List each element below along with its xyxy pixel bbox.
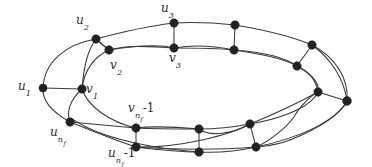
graph-edge bbox=[43, 88, 82, 89]
vertex-label-u1: u1 bbox=[18, 80, 31, 92]
vertex-label-unf: unf bbox=[50, 126, 66, 140]
graph-vertex-u3 bbox=[170, 19, 178, 27]
graph-edge bbox=[250, 92, 318, 124]
graph-edge bbox=[297, 66, 318, 92]
graph-vertex-vB bbox=[293, 62, 301, 70]
graph-edge bbox=[174, 23, 235, 25]
graph-edge bbox=[234, 50, 297, 66]
graph-drawing bbox=[0, 0, 372, 167]
graph-vertex-vC bbox=[314, 88, 322, 96]
graph-vertex-uB bbox=[308, 41, 316, 49]
graph-vertex-unf bbox=[66, 118, 74, 126]
vertex-label-vnf1: vnf-1 bbox=[128, 102, 155, 116]
graph-vertex-u2 bbox=[92, 35, 100, 43]
graph-vertex-uC bbox=[343, 97, 352, 106]
vertex-label-v2: v2 bbox=[110, 59, 122, 71]
graph-vertex-uD bbox=[252, 143, 260, 151]
graph-vertex-uA bbox=[231, 21, 239, 29]
graph-vertex-v1 bbox=[78, 85, 86, 93]
graph-edge bbox=[96, 23, 174, 39]
vertex-label-v3: v3 bbox=[169, 52, 181, 64]
graph-vertex-unf1 bbox=[195, 148, 203, 156]
vertex-label-u3: u3 bbox=[161, 2, 174, 14]
graph-vertex-vD bbox=[246, 120, 254, 128]
graph-vertex-vA bbox=[230, 46, 238, 54]
graph-edge bbox=[69, 89, 83, 122]
graph-vertex-u1 bbox=[39, 84, 47, 92]
graph-edge bbox=[43, 88, 70, 122]
vertex-label-u2: u2 bbox=[76, 14, 89, 26]
graph-edge bbox=[235, 25, 312, 45]
graph-edge bbox=[290, 101, 347, 140]
graph-vertex-v2 bbox=[105, 46, 113, 54]
vertex-label-unf1: unf-1 bbox=[108, 147, 136, 161]
graph-edge bbox=[297, 66, 318, 92]
graph-edge bbox=[234, 50, 297, 66]
figure-container: u1u2u3v1v2v3vnf-1unfunf-1 bbox=[0, 0, 372, 167]
graph-vertex-vnf bbox=[132, 124, 140, 132]
vertex-label-v1: v1 bbox=[86, 83, 98, 95]
graph-edge bbox=[136, 124, 250, 147]
graph-edge bbox=[43, 39, 96, 88]
graph-vertex-vnf1 bbox=[195, 125, 203, 133]
